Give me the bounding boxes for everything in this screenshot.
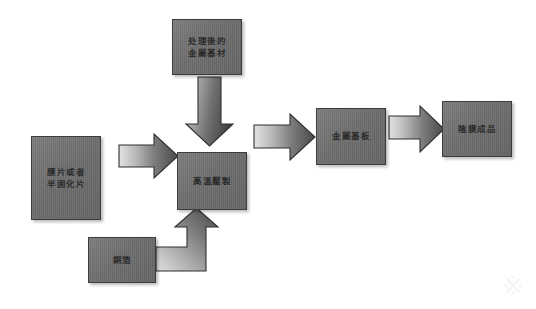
arrow-foil-to-press xyxy=(155,207,235,273)
flowchart-canvas: 处理後的 金屬基材 膜片或者 半固化片 高溫壓製 銅箔 金屬基板 陰膜成品 ※ xyxy=(0,0,536,309)
node-label: 陰膜成品 xyxy=(455,123,499,135)
node-metal-base-plate[interactable]: 金屬基板 xyxy=(316,108,386,165)
node-label: 高溫壓製 xyxy=(190,175,234,187)
node-treated-metal-substrate[interactable]: 处理後的 金屬基材 xyxy=(172,19,242,75)
node-label: 处理後的 金屬基材 xyxy=(185,35,229,60)
node-film-or-semi-cured-sheet[interactable]: 膜片或者 半固化片 xyxy=(31,136,101,220)
node-high-temp-pressing[interactable]: 高溫壓製 xyxy=(177,152,247,210)
node-label: 金屬基板 xyxy=(329,130,373,142)
arrow-substrate-to-press xyxy=(184,76,236,148)
arrow-press-to-plate xyxy=(253,112,317,162)
node-label: 銅箔 xyxy=(110,254,135,266)
node-finished-film-product[interactable]: 陰膜成品 xyxy=(442,101,512,157)
arrow-plate-to-product xyxy=(388,104,446,154)
node-label: 膜片或者 半固化片 xyxy=(44,166,88,191)
node-copper-foil[interactable]: 銅箔 xyxy=(88,237,156,283)
watermark: ※ xyxy=(496,269,530,303)
arrow-film-to-press xyxy=(118,132,180,180)
